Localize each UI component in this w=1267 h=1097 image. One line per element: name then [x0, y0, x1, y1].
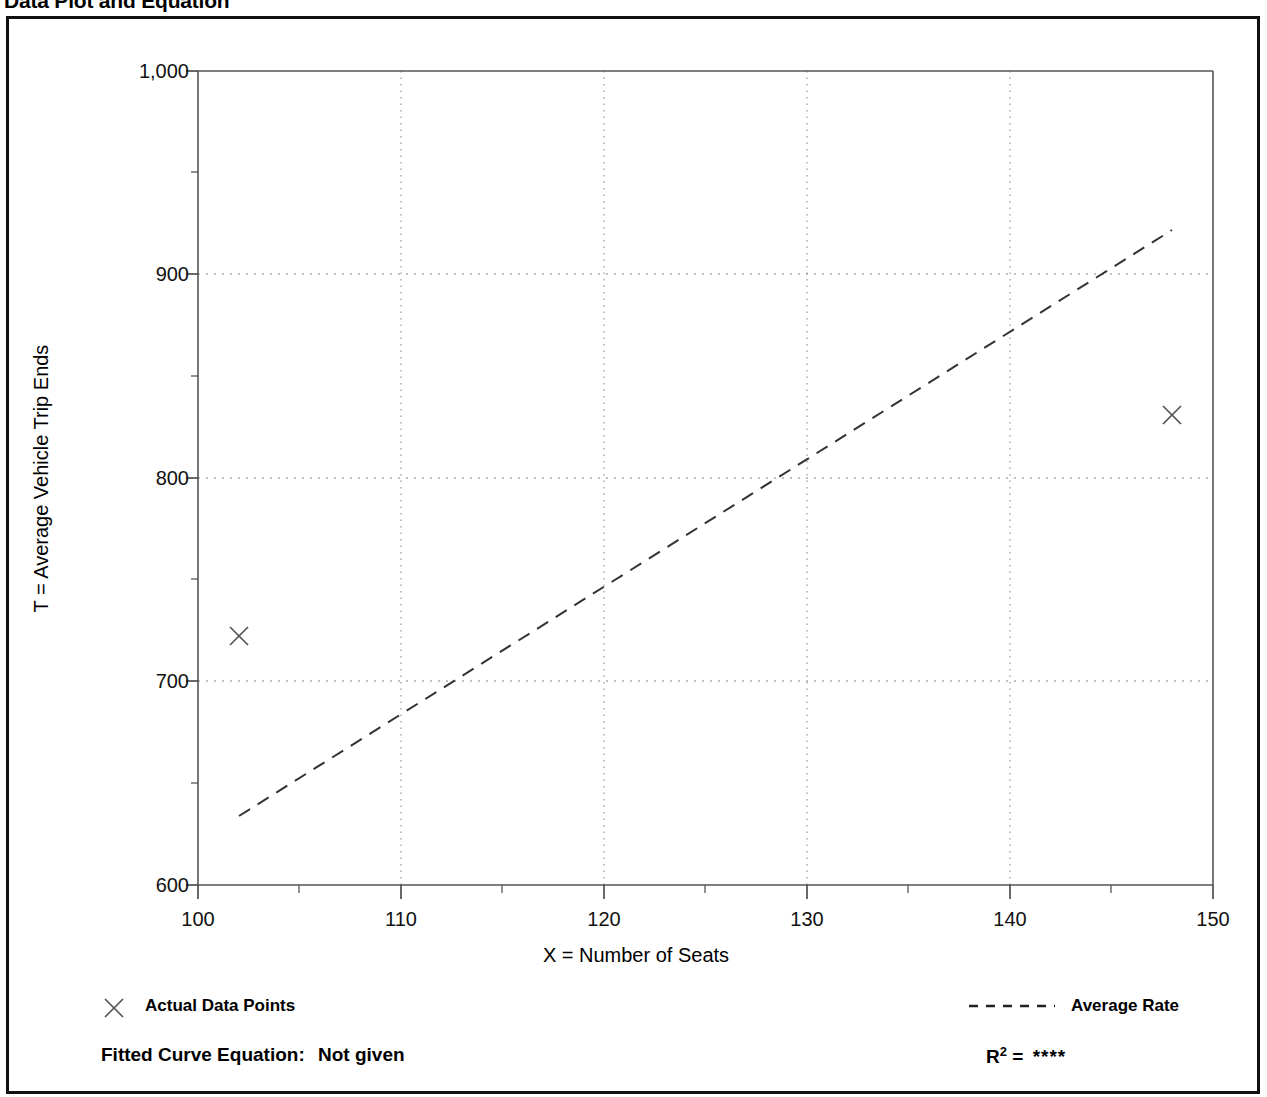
data-point-marker[interactable]	[230, 627, 248, 645]
chart-frame: 1,000 900 800 700 600 100 110 120 130 14…	[6, 16, 1260, 1094]
x-axis-title: X = Number of Seats	[9, 944, 1263, 967]
y-tick-text: 700	[99, 671, 189, 691]
r-squared-exponent: 2	[1000, 1044, 1007, 1059]
legend-item-average-rate[interactable]: Average Rate	[969, 991, 1179, 1021]
y-tick-text: 900	[99, 264, 189, 284]
average-rate-line	[239, 230, 1172, 816]
x-tick-label-130: 130	[767, 909, 847, 929]
fitted-curve-equation-label: Fitted Curve Equation:	[101, 1044, 305, 1065]
x-tick-label-100: 100	[158, 909, 238, 929]
fitted-curve-equation: Fitted Curve Equation: Not given	[101, 1044, 405, 1066]
legend-label: Actual Data Points	[145, 996, 295, 1016]
y-tick-text: 800	[99, 468, 189, 488]
x-marker-icon	[101, 993, 127, 1019]
x-tick-label-120: 120	[564, 909, 644, 929]
fitted-curve-equation-value: Not given	[318, 1044, 405, 1065]
scatter-chart: 1,000 900 800 700 600 100 110 120 130 14…	[9, 19, 1263, 1097]
page-header: Data Plot and Equation	[0, 0, 1267, 15]
page-title: Data Plot and Equation	[4, 0, 229, 13]
x-minor-ticks	[299, 885, 1111, 893]
y-tick-text: 1,000	[99, 61, 189, 81]
horizontal-gridlines	[198, 274, 1213, 681]
plot-canvas	[9, 19, 1263, 1097]
r-squared-readout: R2 = ****	[986, 1044, 1066, 1068]
data-point-marker[interactable]	[1163, 406, 1181, 424]
r-squared-equals: =	[1012, 1046, 1023, 1067]
x-tick-label-110: 110	[361, 909, 441, 929]
x-tick-label-140: 140	[970, 909, 1050, 929]
y-axis-title: T = Average Vehicle Trip Ends	[30, 269, 53, 689]
legend-label: Average Rate	[1071, 996, 1179, 1016]
r-squared-label: R	[986, 1046, 1000, 1067]
r-squared-value: ****	[1033, 1046, 1067, 1067]
legend-item-actual-data-points[interactable]: Actual Data Points	[101, 991, 295, 1021]
x-tick-label-150: 150	[1173, 909, 1253, 929]
y-tick-text: 600	[99, 875, 189, 895]
dashed-line-icon	[969, 999, 1055, 1013]
